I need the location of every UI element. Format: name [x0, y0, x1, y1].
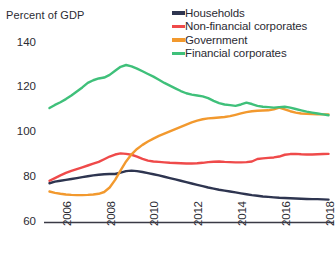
legend-swatch-financial-corporates: [172, 52, 185, 56]
legend-item-households[interactable]: Households: [172, 6, 336, 20]
chart-container: Percent of GDP 6080100120140 20062008201…: [0, 0, 336, 268]
legend: Households Non-financial corporates Gove…: [172, 6, 336, 60]
legend-label-households: Households: [185, 7, 245, 20]
series-group: [49, 65, 328, 200]
legend-swatch-non-financial-corporates: [172, 25, 185, 29]
legend-item-government[interactable]: Government: [172, 33, 336, 47]
legend-label-non-financial-corporates: Non-financial corporates: [185, 20, 307, 33]
legend-item-financial-corporates[interactable]: Financial corporates: [172, 47, 336, 61]
legend-swatch-government: [172, 38, 185, 42]
series-line: [49, 65, 328, 115]
legend-swatch-households: [172, 11, 185, 15]
legend-label-financial-corporates: Financial corporates: [185, 47, 287, 60]
legend-item-non-financial-corporates[interactable]: Non-financial corporates: [172, 20, 336, 34]
legend-label-government: Government: [185, 34, 247, 47]
